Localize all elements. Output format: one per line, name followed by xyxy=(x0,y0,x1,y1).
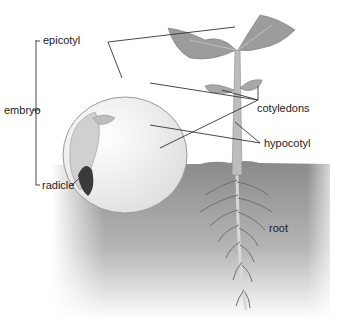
label-hypocotyl: hypocotyl xyxy=(264,138,310,149)
label-root: root xyxy=(269,223,288,234)
cotyledon-leaves xyxy=(205,80,262,94)
label-cotyledons: cotyledons xyxy=(257,103,310,114)
label-radicle: radicle xyxy=(42,180,74,191)
seed xyxy=(63,97,187,213)
diagram-artwork xyxy=(0,0,344,328)
label-embryo: embryo xyxy=(4,105,41,116)
label-epicotyl: epicotyl xyxy=(43,35,80,46)
seed-germination-diagram: epicotyl embryo radicle cotyledons hypoc… xyxy=(0,0,344,328)
true-leaves xyxy=(168,15,295,59)
